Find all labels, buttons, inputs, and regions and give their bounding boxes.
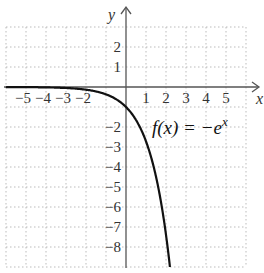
y-tick-label: −6 [105, 199, 121, 215]
y-tick-label: 1 [114, 59, 122, 75]
x-tick-label: 5 [222, 90, 230, 106]
x-tick-label: −5 [15, 90, 31, 106]
y-axis-label: y [106, 6, 116, 24]
x-tick-label: 1 [142, 90, 150, 106]
y-tick-label: −2 [105, 119, 121, 135]
y-tick-label: −4 [105, 159, 121, 175]
x-tick-label: 2 [162, 90, 170, 106]
x-tick-label: 4 [202, 90, 210, 106]
function-label-main: f(x) = −e [152, 117, 222, 139]
y-tick-label: −5 [105, 179, 121, 195]
x-axis-label: x [255, 90, 263, 107]
x-tick-label: 3 [182, 90, 190, 106]
y-tick-label: −3 [105, 139, 121, 155]
x-tick-label: −4 [35, 90, 51, 106]
function-curve [6, 87, 170, 267]
y-tick-label: −8 [105, 239, 121, 255]
y-tick-label: 2 [114, 39, 122, 55]
function-label-exponent: x [221, 114, 228, 129]
x-tick-label: −2 [75, 90, 91, 106]
x-tick-label: −3 [55, 90, 71, 106]
y-tick-label: −7 [105, 219, 121, 235]
function-graph: −5−4−3−21234521−2−3−4−5−6−7−8 y x f(x) =… [0, 0, 264, 273]
function-label: f(x) = −ex [152, 114, 228, 139]
